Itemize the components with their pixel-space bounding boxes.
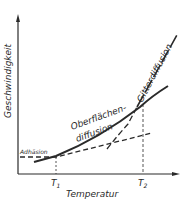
x-axis-label: Temperatur [66, 189, 119, 199]
t1-label: T1 [51, 178, 60, 189]
t2-label: T2 [138, 178, 148, 189]
adhesion-label: Adhäsion [19, 148, 48, 155]
y-axis-arrow-icon [16, 14, 20, 22]
y-axis-label: Geschwindigkeit [3, 43, 13, 118]
x-axis-arrow-icon [172, 172, 180, 176]
diffusion-diagram: Geschwindigkeit Temperatur T1 T2 Adhäsio… [0, 0, 190, 205]
